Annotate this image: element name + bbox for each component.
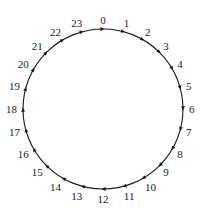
cycle-circle [23, 29, 183, 189]
node-label: 0 [100, 14, 106, 26]
node-label: 19 [9, 80, 21, 92]
node-label: 3 [163, 40, 169, 52]
node-label: 21 [32, 40, 43, 52]
node-label: 1 [124, 17, 130, 29]
node-label: 14 [50, 181, 62, 193]
node-label: 23 [71, 17, 83, 29]
node-label: 11 [124, 190, 135, 202]
cycle-diagram: 01234567891011121314151617181920212223 [0, 0, 202, 208]
node-label: 2 [145, 26, 151, 38]
node-label: 22 [50, 26, 61, 38]
node-label: 8 [177, 148, 183, 160]
node-label: 6 [189, 103, 195, 115]
node-label: 18 [6, 103, 18, 115]
node-label: 4 [177, 58, 183, 70]
node-label: 15 [32, 166, 44, 178]
node-label: 17 [9, 126, 21, 138]
node-label: 20 [18, 58, 30, 70]
arrowhead-icon [100, 27, 104, 31]
node-label: 5 [186, 80, 192, 92]
node-label: 7 [186, 126, 192, 138]
node-label: 9 [163, 166, 169, 178]
node-label: 16 [18, 148, 30, 160]
node-label: 13 [71, 190, 83, 202]
node-label: 12 [98, 193, 109, 205]
node-label: 10 [145, 181, 157, 193]
arrowhead-icon [21, 108, 25, 112]
arrowheads [21, 27, 185, 191]
node-labels: 01234567891011121314151617181920212223 [6, 14, 195, 205]
arrowhead-icon [102, 187, 106, 191]
arrowhead-icon [181, 106, 185, 110]
